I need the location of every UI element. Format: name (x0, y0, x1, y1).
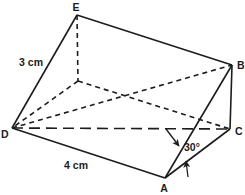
vertex-label-E: E (72, 1, 79, 13)
angle-pointer-lower (186, 161, 188, 177)
edge-A-B (165, 65, 232, 178)
vertex-label-C: C (235, 125, 243, 137)
vertex-label-D: D (1, 128, 9, 140)
edge-D-C (12, 128, 230, 129)
prism-figure: EBCAD3 cm4 cm30° (0, 0, 245, 195)
vertex-label-B: B (237, 59, 245, 71)
edge-B-C (230, 65, 232, 129)
edge-E-B (77, 15, 232, 65)
edge-D-A (12, 128, 165, 178)
edge-E-F (77, 15, 78, 81)
edge-F-C (78, 81, 230, 129)
edge-A-C (165, 129, 230, 178)
edge-F-D (12, 81, 78, 128)
edge-E-D (12, 15, 77, 128)
edge-length-DA: 4 cm (64, 159, 88, 171)
angle-pointer-upper (166, 129, 179, 146)
vertex-label-A: A (160, 182, 168, 194)
angle-value: 30° (184, 141, 200, 153)
prism-diagram-svg: EBCAD3 cm4 cm30° (0, 0, 245, 195)
diagram-layer: EBCAD3 cm4 cm30° (1, 1, 245, 194)
edge-length-ED: 3 cm (19, 56, 43, 68)
